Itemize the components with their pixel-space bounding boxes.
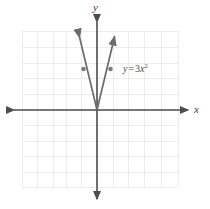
point-marker-right — [108, 67, 113, 72]
equation-exponent: 2 — [145, 62, 148, 69]
equation-annotation: y=3x2 — [123, 64, 148, 74]
point-marker-left — [81, 67, 86, 72]
grid-lines — [22, 31, 178, 187]
coordinate-plane — [0, 0, 210, 209]
graph-figure: y x y=3x2 — [0, 0, 210, 209]
y-axis-label: y — [93, 2, 98, 13]
equation-operator: = — [127, 63, 135, 74]
x-axis-label: x — [194, 104, 199, 115]
